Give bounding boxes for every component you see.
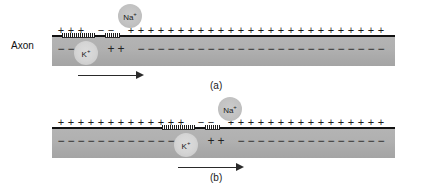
charge-negative: −	[236, 136, 246, 146]
charge-positive: +	[156, 117, 166, 127]
charge-positive: +	[216, 136, 226, 146]
charge-negative: −	[316, 136, 326, 146]
charge-negative: −	[276, 136, 286, 146]
charge-negative: −	[376, 44, 386, 54]
charge-negative: −	[146, 44, 156, 54]
charge-negative: −	[176, 44, 186, 54]
charge-positive: +	[76, 25, 86, 35]
charge-positive: +	[186, 25, 196, 35]
charge-positive: +	[136, 117, 146, 127]
charge-positive: +	[56, 25, 66, 35]
charge-positive: +	[136, 25, 146, 35]
charge-negative: −	[376, 136, 386, 146]
sodium-ion-label-b: Na+	[223, 104, 237, 115]
charge-negative: −	[276, 44, 286, 54]
charge-positive: +	[146, 25, 156, 35]
charge-negative: −	[196, 44, 206, 54]
charge-negative: −	[246, 44, 256, 54]
charge-positive: +	[66, 117, 76, 127]
potassium-ion-label-a: K+	[82, 48, 91, 59]
charge-negative: −	[286, 136, 296, 146]
charge-negative: −	[266, 44, 276, 54]
charge-positive: +	[346, 25, 356, 35]
panel-caption-a: (a)	[210, 80, 222, 91]
charge-positive: +	[366, 25, 376, 35]
charge-positive: +	[276, 25, 286, 35]
charge-positive: +	[226, 25, 236, 35]
charge-negative: −	[306, 44, 316, 54]
charge-positive: +	[206, 136, 216, 146]
charge-positive: +	[326, 25, 336, 35]
charge-positive: +	[266, 25, 276, 35]
charge-positive: +	[116, 44, 126, 54]
charge-positive: +	[336, 25, 346, 35]
charge-negative: −	[56, 136, 66, 146]
charge-negative: −	[326, 44, 336, 54]
charge-positive: +	[126, 117, 136, 127]
charge-negative: −	[86, 136, 96, 146]
charge-positive: +	[246, 25, 256, 35]
arrow-head-icon-b	[236, 163, 244, 171]
charge-negative: −	[166, 44, 176, 54]
charge-positive: +	[76, 117, 86, 127]
charge-negative: −	[246, 136, 256, 146]
charge-positive: +	[316, 117, 326, 127]
arrow-head-icon-a	[136, 71, 144, 79]
charge-positive: +	[316, 25, 326, 35]
charge-negative: −	[286, 44, 296, 54]
charge-positive: +	[296, 117, 306, 127]
potassium-ion-bubble-b: K+	[174, 133, 198, 157]
charge-negative: −	[226, 44, 236, 54]
charge-positive: +	[66, 25, 76, 35]
charge-positive: +	[356, 117, 366, 127]
charge-positive: +	[376, 117, 386, 127]
charge-negative: −	[106, 25, 116, 35]
charge-positive: +	[106, 117, 116, 127]
axon-label: Axon	[11, 40, 34, 51]
charge-negative: −	[336, 136, 346, 146]
charge-negative: −	[356, 44, 366, 54]
charge-negative: −	[206, 44, 216, 54]
panel-b: +++++++++++++−−++++++++++++++++ −−−−−−−−…	[0, 97, 424, 194]
charge-negative: −	[96, 25, 106, 35]
charge-positive: +	[306, 25, 316, 35]
charge-negative: −	[346, 136, 356, 146]
charge-negative: −	[106, 136, 116, 146]
propagation-arrow-a	[78, 71, 144, 81]
charge-positive: +	[56, 117, 66, 127]
charge-negative: −	[136, 44, 146, 54]
charge-negative: −	[356, 136, 366, 146]
charge-negative: −	[346, 44, 356, 54]
charge-negative: −	[256, 136, 266, 146]
charge-positive: +	[296, 25, 306, 35]
charge-negative: −	[206, 117, 216, 127]
charge-negative: −	[156, 136, 166, 146]
charge-negative: −	[326, 136, 336, 146]
charge-positive: +	[356, 25, 366, 35]
charge-negative: −	[196, 117, 206, 127]
charge-positive: +	[246, 117, 256, 127]
charge-positive: +	[86, 117, 96, 127]
charge-negative: −	[96, 136, 106, 146]
arrow-line-icon-a	[78, 75, 138, 76]
panel-a: Axon +++−−++++++++++++++++++++++++++ −−−…	[0, 0, 424, 97]
charge-positive: +	[266, 117, 276, 127]
charge-positive: +	[96, 117, 106, 127]
charge-positive: +	[366, 117, 376, 127]
charge-positive: +	[176, 25, 186, 35]
charge-positive: +	[256, 25, 266, 35]
axon-action-potential-figure: Axon +++−−++++++++++++++++++++++++++ −−−…	[0, 0, 424, 194]
charge-positive: +	[286, 25, 296, 35]
charge-positive: +	[176, 117, 186, 127]
charge-negative: −	[296, 44, 306, 54]
charge-positive: +	[336, 117, 346, 127]
charge-negative: −	[316, 44, 326, 54]
potassium-ion-label-b: K+	[182, 140, 191, 151]
charge-negative: −	[366, 136, 376, 146]
charge-negative: −	[216, 44, 226, 54]
panel-caption-b: (b)	[210, 172, 222, 183]
charge-negative: −	[236, 44, 246, 54]
inner-charge-row-a: −−−++−−−−−−−−−−−−−−−−−−−−−−−−−	[56, 43, 386, 55]
charge-negative: −	[336, 44, 346, 54]
charge-negative: −	[126, 136, 136, 146]
